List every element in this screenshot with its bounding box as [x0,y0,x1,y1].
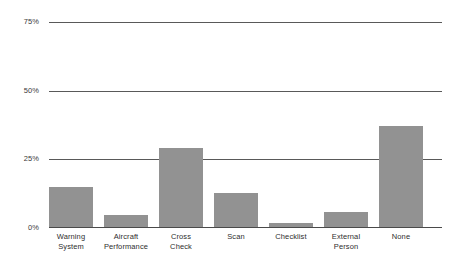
y-tick-label-75: 75% [24,18,39,26]
x-label-line-2: Check [150,242,212,252]
x-label-line-1: External [332,232,360,241]
x-label-line-2: Performance [95,242,157,252]
x-label-aircraft-performance: Aircraft Performance [95,232,157,252]
x-label-line-1: Checklist [275,232,306,241]
plot-area [49,22,442,228]
x-label-cross-check: Cross Check [150,232,212,252]
y-tick-label-0: 0% [28,224,39,232]
x-label-line-2: Person [315,242,377,252]
bar-scan[interactable] [214,193,258,227]
x-label-line-1: Aircraft [114,232,139,241]
bar-cross-check[interactable] [159,148,203,227]
x-label-external-person: External Person [315,232,377,252]
bar-chart: 75% 50% 25% 0% Warning System Aircraft P… [0,0,461,269]
x-label-line-1: Warning [57,232,85,241]
gridline-75 [49,22,442,23]
gridline-baseline-0 [49,227,442,228]
x-label-checklist: Checklist [260,232,322,242]
y-axis-tick-labels: 75% 50% 25% 0% [0,22,44,228]
x-label-line-2: System [40,242,102,252]
y-tick-label-50: 50% [24,87,39,95]
x-label-line-1: Scan [227,232,245,241]
bar-warning-system[interactable] [49,187,93,227]
x-label-line-1: None [392,232,410,241]
bar-checklist[interactable] [269,223,313,227]
gridline-50 [49,91,442,92]
bar-external-person[interactable] [324,212,368,227]
x-label-scan: Scan [205,232,267,242]
x-label-none: None [370,232,432,242]
bar-none[interactable] [379,126,423,227]
x-axis-category-labels: Warning System Aircraft Performance Cros… [49,232,442,266]
x-label-line-1: Cross [171,232,191,241]
x-label-warning-system: Warning System [40,232,102,252]
y-tick-label-25: 25% [24,155,39,163]
bar-aircraft-performance[interactable] [104,215,148,227]
